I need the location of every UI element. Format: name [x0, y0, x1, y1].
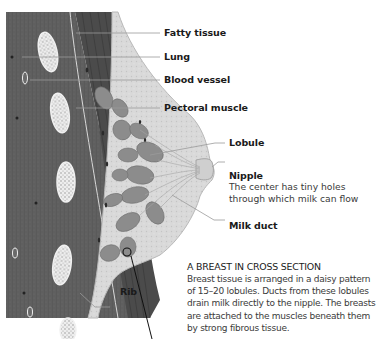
label-fatty-tissue: Fatty tissue	[164, 27, 226, 38]
label-rib: Rib	[120, 286, 137, 297]
caption-body: Breast tissue is arranged in a daisy pat…	[187, 273, 377, 334]
label-blood-vessel: Blood vessel	[164, 74, 230, 85]
nipple-description-line2: through which milk can flow	[229, 193, 358, 205]
label-lobule: Lobule	[229, 137, 264, 148]
caption-line: by strong fibrous tissue.	[187, 322, 377, 334]
caption-line: are attached to the muscles beneath them	[187, 310, 377, 322]
caption-line: drain milk directly to the nipple. The b…	[187, 297, 377, 309]
label-nipple: Nipple	[229, 170, 263, 181]
caption-title: A BREAST IN CROSS SECTION	[187, 261, 321, 272]
label-milk-duct: Milk duct	[229, 220, 277, 231]
label-lung: Lung	[164, 51, 190, 62]
caption-line: Breast tissue is arranged in a daisy pat…	[187, 273, 377, 285]
caption-line: of 15–20 lobules. Ducts from these lobul…	[187, 285, 377, 297]
label-pectoral-muscle: Pectoral muscle	[164, 102, 248, 113]
nipple-description-line1: The center has tiny holes	[229, 181, 345, 193]
nipple	[196, 159, 213, 180]
